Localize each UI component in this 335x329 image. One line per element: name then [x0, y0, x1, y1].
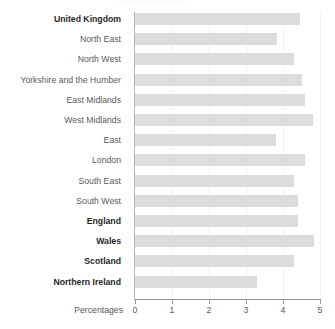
bar-row[interactable] [135, 215, 320, 227]
category-label: United Kingdom [0, 14, 121, 24]
x-axis-tick [209, 300, 210, 304]
bar[interactable] [135, 255, 294, 267]
bar-row[interactable] [135, 195, 320, 207]
bar-row[interactable] [135, 134, 320, 146]
bar-row[interactable] [135, 175, 320, 187]
bar-row[interactable] [135, 94, 320, 106]
category-label: South West [0, 196, 121, 206]
bar[interactable] [135, 276, 257, 288]
bar[interactable] [135, 33, 277, 45]
x-axis-tick-label: 0 [125, 305, 145, 316]
bar-row[interactable] [135, 74, 320, 86]
bar-row[interactable] [135, 235, 320, 247]
plot-area [135, 13, 320, 296]
x-axis-tick [172, 300, 173, 304]
x-axis-tick-label: 3 [236, 305, 256, 316]
category-label: East [0, 135, 121, 145]
x-axis-line [134, 299, 321, 300]
bar-row[interactable] [135, 255, 320, 267]
x-axis-tick-label: 5 [310, 305, 330, 316]
category-label: Northern Ireland [0, 277, 121, 287]
category-label: London [0, 155, 121, 165]
category-label: Wales [0, 236, 121, 246]
y-axis-line [134, 12, 135, 299]
x-axis-tick [320, 300, 321, 304]
bar[interactable] [135, 94, 305, 106]
bar-row[interactable] [135, 154, 320, 166]
bar-row[interactable] [135, 13, 320, 25]
gridline [320, 13, 321, 296]
bar-chart: United KingdomNorth EastNorth WestYorksh… [0, 0, 335, 329]
cropped-title-artifact [118, 0, 188, 5]
x-axis-tick [135, 300, 136, 304]
x-axis-tick [246, 300, 247, 304]
bar-row[interactable] [135, 114, 320, 126]
bar[interactable] [135, 195, 298, 207]
bar-row[interactable] [135, 53, 320, 65]
category-label: Yorkshire and the Humber [0, 75, 121, 85]
bar-row[interactable] [135, 33, 320, 45]
category-label: Scotland [0, 256, 121, 266]
x-axis-tick-label: 4 [273, 305, 293, 316]
bar[interactable] [135, 134, 276, 146]
category-label: North East [0, 34, 121, 44]
bar[interactable] [135, 175, 294, 187]
bar[interactable] [135, 235, 314, 247]
category-label-column: United KingdomNorth EastNorth WestYorksh… [0, 13, 127, 296]
x-axis-title: Percentages [74, 305, 123, 316]
x-axis-tick-label: 2 [199, 305, 219, 316]
bar-row[interactable] [135, 276, 320, 288]
bar[interactable] [135, 13, 300, 25]
category-label: North West [0, 54, 121, 64]
bar[interactable] [135, 215, 298, 227]
bar[interactable] [135, 53, 294, 65]
bar[interactable] [135, 114, 313, 126]
x-axis-tick-label: 1 [162, 305, 182, 316]
category-label: West Midlands [0, 115, 121, 125]
category-label: South East [0, 176, 121, 186]
x-axis-tick [283, 300, 284, 304]
category-label: East Midlands [0, 95, 121, 105]
category-label: England [0, 216, 121, 226]
bar[interactable] [135, 154, 305, 166]
bar[interactable] [135, 74, 302, 86]
